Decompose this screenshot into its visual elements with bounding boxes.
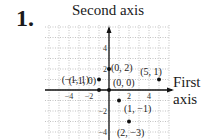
x-tick-label: −4 <box>65 92 74 101</box>
x-tick-label: −2 <box>85 92 94 101</box>
coordinate-plane: −4−22442−2−4(0, 2)(5, 1)(−1, 1)(−1, 0)(0… <box>0 0 210 140</box>
y-tick-label: −4 <box>98 128 107 137</box>
x-tick-label: 2 <box>127 92 131 101</box>
data-point <box>127 120 131 124</box>
data-point <box>97 88 101 92</box>
data-point <box>117 99 121 103</box>
y-tick-label: 2 <box>103 65 107 74</box>
y-tick-label: 4 <box>103 44 107 53</box>
point-label: (2, −3) <box>117 127 144 139</box>
x-tick-label: 4 <box>147 92 151 101</box>
point-label: (−1, 0) <box>69 75 96 87</box>
y-tick-label: −2 <box>98 107 107 116</box>
data-point <box>157 78 161 82</box>
point-label: (1, −1) <box>124 103 151 115</box>
point-label: (5, 1) <box>140 66 162 78</box>
data-point <box>97 78 101 82</box>
x-axis-arrow-icon <box>167 88 174 93</box>
data-point <box>107 88 111 92</box>
point-label: (0, 0) <box>113 77 135 89</box>
point-label: (0, 2) <box>111 62 133 74</box>
